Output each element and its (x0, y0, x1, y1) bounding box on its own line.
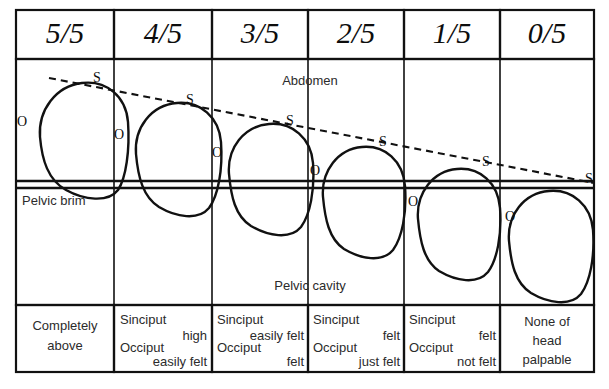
pelvic-brim-line (16, 181, 594, 188)
pelvic-cavity-zone-label: Pelvic cavity (274, 278, 346, 293)
finding-1-line-3: easily felt (153, 354, 208, 369)
occiput-marker-4-5: O (114, 127, 124, 142)
finding-4-line-0: Sinciput (409, 312, 456, 327)
fetal-head-outline-2-5 (323, 147, 406, 258)
finding-4-line-2: Occiput (409, 340, 453, 355)
sinciput-marker-2-5: S (379, 134, 387, 149)
finding-2-line-0: Sinciput (217, 312, 264, 327)
sinciput-descent-trajectory (49, 78, 594, 183)
finding-2-line-3: felt (287, 354, 305, 369)
occiput-marker-5-5: O (17, 114, 27, 129)
sinciput-marker-3-5: S (286, 113, 294, 128)
landmark-markers: S O S O S O S O S O S O (17, 70, 593, 224)
sinciput-marker-1-5: S (482, 154, 490, 169)
finding-3-line-0: Sinciput (313, 312, 360, 327)
occiput-marker-1-5: O (408, 194, 418, 209)
finding-3-line-3: just felt (358, 354, 401, 369)
finding-0-line-1: above (47, 338, 82, 353)
occiput-marker-0-5: O (505, 209, 515, 224)
finding-1-line-0: Sinciput (120, 312, 167, 327)
diagram-canvas: 5/5 4/5 3/5 2/5 1/5 0/5 Abdomen (0, 0, 609, 389)
fetal-head-outline-0-5 (509, 191, 594, 302)
pelvic-brim-label: Pelvic brim (22, 193, 86, 208)
fetal-head-descent-diagram: 5/5 4/5 3/5 2/5 1/5 0/5 Abdomen (0, 0, 609, 389)
finding-5-line-2: palpable (522, 352, 571, 367)
finding-5-line-0: None of (524, 314, 570, 329)
abdomen-zone-label: Abdomen (282, 73, 338, 88)
header-label-2-5: 2/5 (337, 16, 375, 49)
fetal-head-group (40, 83, 594, 303)
finding-4-line-1: felt (479, 328, 497, 343)
finding-2-line-2: Occiput (217, 340, 261, 355)
header-label-1-5: 1/5 (433, 16, 471, 49)
occiput-marker-3-5: O (212, 145, 222, 160)
finding-1-line-1: high (182, 328, 207, 343)
findings-row: Completely above Sinciput high Occiput e… (16, 305, 594, 372)
header-row: 5/5 4/5 3/5 2/5 1/5 0/5 (16, 10, 594, 59)
header-label-4-5: 4/5 (144, 16, 182, 49)
header-label-5-5: 5/5 (46, 16, 84, 49)
sinciput-marker-5-5: S (93, 70, 101, 85)
fetal-head-outline-3-5 (229, 124, 314, 235)
finding-1-line-2: Occiput (120, 340, 164, 355)
sinciput-marker-0-5: S (585, 171, 593, 186)
finding-3-line-2: Occiput (313, 340, 357, 355)
occiput-marker-2-5: O (310, 163, 320, 178)
fetal-head-outline-4-5 (136, 103, 222, 216)
sinciput-marker-4-5: S (186, 92, 194, 107)
finding-3-line-1: felt (383, 328, 401, 343)
finding-5-line-1: head (533, 333, 562, 348)
fetal-head-outline-1-5 (418, 169, 501, 280)
finding-4-line-3: not felt (457, 354, 496, 369)
header-label-3-5: 3/5 (240, 16, 279, 49)
header-label-0-5: 0/5 (528, 16, 566, 49)
finding-0-line-0: Completely (32, 318, 98, 333)
